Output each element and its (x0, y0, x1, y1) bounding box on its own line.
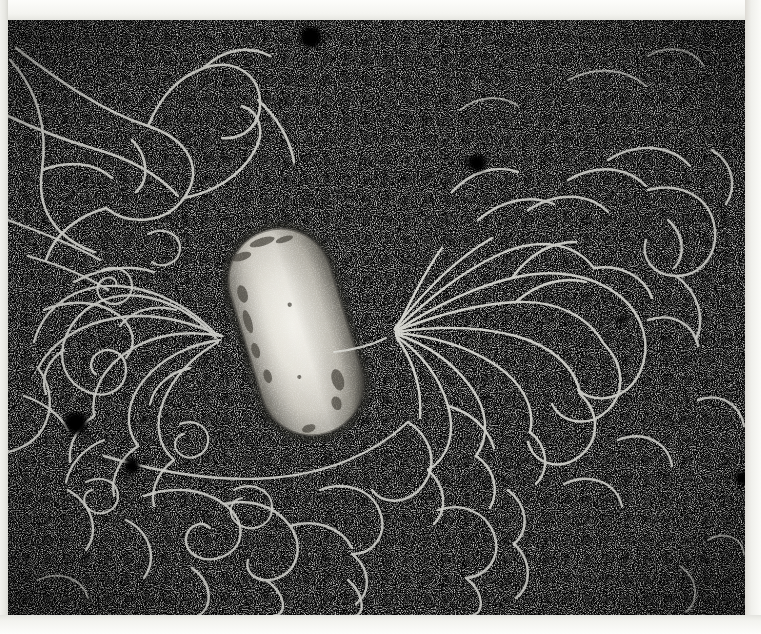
plate-border-top (0, 0, 761, 20)
plate-border-right (745, 0, 761, 634)
plate-border-bottom (0, 615, 761, 634)
film-grain-overlay (8, 20, 745, 615)
micrograph-figure: lysed bacterium with released chromosoma… (0, 0, 761, 634)
micrograph-canvas (8, 20, 745, 615)
micrograph-plate (8, 20, 745, 615)
plate-border-left (0, 0, 8, 634)
